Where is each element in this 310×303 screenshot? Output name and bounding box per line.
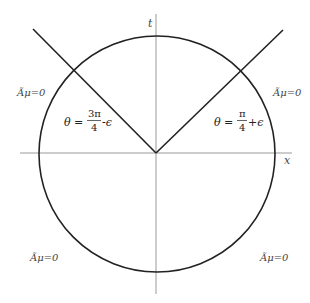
- gauge-label-top-left: Ãμ=0: [16, 87, 46, 98]
- right-theta-denominator: 4: [239, 122, 245, 133]
- right-cone-line: [156, 30, 283, 153]
- left-theta-prefix: θ =: [64, 116, 83, 129]
- right-theta-prefix: θ =: [214, 116, 233, 129]
- left-cone-line: [33, 29, 156, 153]
- x-axis-label: x: [284, 154, 291, 167]
- spacetime-diagram: t x Ãμ=0 Ãμ=0 Ãμ=0 Ãμ=0 θ = 3π 4 -ϵ θ = …: [0, 0, 310, 303]
- gauge-label-bottom-left: Ãμ=0: [29, 252, 59, 263]
- right-theta-numerator: π: [239, 108, 246, 119]
- right-angle-annotation: θ = π 4 +ϵ: [214, 108, 263, 133]
- right-theta-suffix: +ϵ: [248, 116, 263, 129]
- gauge-label-bottom-right: Ãμ=0: [259, 252, 289, 263]
- t-axis-label: t: [148, 17, 153, 30]
- left-angle-annotation: θ = 3π 4 -ϵ: [64, 108, 112, 133]
- gauge-label-top-right: Ãμ=0: [272, 87, 302, 98]
- left-theta-suffix: -ϵ: [102, 116, 112, 129]
- left-theta-numerator: 3π: [88, 108, 101, 119]
- left-theta-denominator: 4: [91, 122, 97, 133]
